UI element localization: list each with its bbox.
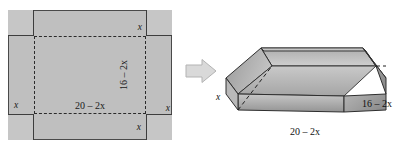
fold-line-bottom	[34, 113, 146, 114]
box-rim-back	[261, 48, 366, 51]
fold-line-top	[34, 36, 146, 37]
transformation-arrow	[185, 58, 217, 84]
box-label-length: 20 – 2x	[290, 126, 320, 137]
box-front-outer-wall	[238, 94, 344, 112]
right-arrow-icon	[185, 58, 217, 84]
box-label-height: x	[216, 92, 220, 102]
flat-sheet-diagram: x x x x 20 – 2x 16 – 2x	[8, 10, 172, 140]
sheet-label-width: 20 – 2x	[72, 101, 108, 111]
corner-square-bottom-left	[8, 114, 34, 140]
box-label-width: 16 – 2x	[362, 98, 392, 109]
open-box-3d-diagram: 20 – 2x 16 – 2x x	[214, 22, 402, 148]
corner-square-top-right	[146, 10, 172, 36]
corner-square-bottom-right	[146, 114, 172, 140]
sheet-label-x-right: x	[166, 104, 170, 114]
sheet-label-x-top: x	[138, 23, 142, 33]
sheet-label-x-bottom: x	[137, 123, 141, 133]
fold-line-right	[145, 36, 146, 114]
sheet-label-height: 16 – 2x	[119, 57, 129, 93]
sheet-label-x-left: x	[14, 101, 18, 111]
fold-line-left	[34, 36, 35, 114]
figure-open-box-construction: x x x x 20 – 2x 16 – 2x	[0, 0, 402, 148]
corner-square-top-left	[8, 10, 34, 36]
